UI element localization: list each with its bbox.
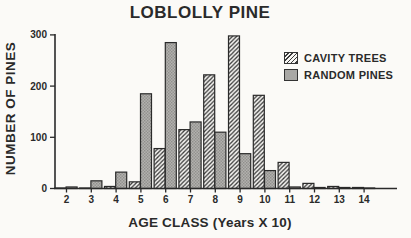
y-tick-label-300: 300 bbox=[30, 29, 47, 40]
bar-cavity-9 bbox=[229, 36, 240, 189]
x-tick-label-4: 4 bbox=[113, 194, 119, 205]
bar-random-6 bbox=[165, 43, 176, 189]
x-tick-label-3: 3 bbox=[89, 194, 95, 205]
x-tick-label-12: 12 bbox=[309, 194, 321, 205]
legend-item-random-pines: RANDOM PINES bbox=[284, 66, 393, 83]
x-tick-label-14: 14 bbox=[359, 194, 371, 205]
x-tick-label-9: 9 bbox=[237, 194, 243, 205]
y-tick-label-0: 0 bbox=[41, 183, 47, 194]
bar-cavity-8 bbox=[204, 75, 215, 189]
legend: CAVITY TREES RANDOM PINES bbox=[284, 49, 393, 83]
x-tick-label-2: 2 bbox=[64, 194, 70, 205]
x-tick-label-5: 5 bbox=[138, 194, 144, 205]
legend-label-random-pines: RANDOM PINES bbox=[304, 69, 393, 81]
bar-random-7 bbox=[190, 122, 201, 189]
bar-cavity-10 bbox=[253, 95, 264, 188]
bar-cavity-7 bbox=[179, 130, 190, 189]
y-axis-label: NUMBER OF PINES bbox=[3, 29, 18, 189]
legend-label-cavity-trees: CAVITY TREES bbox=[304, 52, 387, 64]
bar-random-8 bbox=[215, 132, 226, 188]
random-pines-swatch-icon bbox=[284, 69, 298, 81]
x-tick-label-8: 8 bbox=[213, 194, 219, 205]
y-tick-label-200: 200 bbox=[30, 81, 47, 92]
x-tick-label-11: 11 bbox=[284, 194, 295, 205]
bar-random-5 bbox=[141, 94, 152, 189]
cavity-trees-swatch-icon bbox=[284, 52, 298, 64]
x-tick-label-6: 6 bbox=[163, 194, 169, 205]
x-axis-label: AGE CLASS (Years X 10) bbox=[30, 215, 390, 230]
bar-random-9 bbox=[240, 154, 251, 189]
bar-cavity-11 bbox=[278, 162, 289, 188]
legend-item-cavity-trees: CAVITY TREES bbox=[284, 49, 393, 66]
bar-random-3 bbox=[91, 181, 102, 189]
x-tick-label-7: 7 bbox=[188, 194, 194, 205]
bar-random-10 bbox=[265, 171, 276, 189]
bar-cavity-6 bbox=[154, 149, 165, 189]
x-tick-label-13: 13 bbox=[334, 194, 346, 205]
bar-cavity-5 bbox=[129, 182, 140, 189]
plot-area: 0100200300234567891011121314 bbox=[0, 0, 411, 238]
x-tick-label-10: 10 bbox=[259, 194, 271, 205]
y-tick-label-100: 100 bbox=[30, 132, 47, 143]
chart-title: LOBLOLLY PINE bbox=[0, 3, 400, 23]
chart-figure: 0100200300234567891011121314 LOBLOLLY PI… bbox=[0, 0, 411, 238]
bar-random-4 bbox=[116, 172, 127, 188]
